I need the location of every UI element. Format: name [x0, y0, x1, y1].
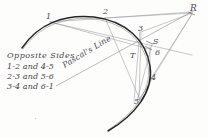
- opposite-sides-legend: Opposite Sides 1-2 and 4-5 2-3 and 5-6 3…: [7, 51, 75, 92]
- legend-heading: Opposite Sides: [7, 51, 75, 61]
- intersection-T-label: T: [130, 52, 136, 60]
- intersection-R-label: R: [190, 4, 197, 13]
- point-2-label: 2: [103, 8, 108, 16]
- legend-line-1: 1-2 and 4-5: [7, 62, 75, 72]
- point-4-label: 4: [151, 74, 156, 82]
- pascals-line: [56, 10, 195, 86]
- line-2-R: [105, 13, 192, 18]
- point-6-label: 6: [155, 49, 160, 57]
- line-5-R: [139, 14, 192, 100]
- paper-speck: [35, 118, 36, 119]
- pascal-theorem-diagram: 1 2 3 4 5 6 R S T Pascal's Line Opposite…: [0, 0, 208, 138]
- point-1-label: 1: [46, 13, 51, 21]
- intersection-S-label: S: [153, 38, 159, 46]
- legend-line-3: 3-4 and 6-1: [7, 82, 75, 92]
- legend-line-2: 2-3 and 5-6: [7, 72, 75, 82]
- tick-S: [146, 41, 153, 44]
- point-3-label: 3: [138, 25, 143, 33]
- point-5-label: 5: [134, 98, 139, 106]
